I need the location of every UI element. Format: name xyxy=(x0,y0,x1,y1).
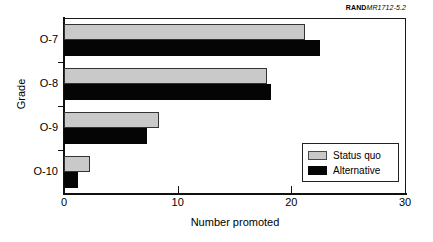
rand-brand: RAND xyxy=(346,4,367,11)
y-axis-tick xyxy=(58,62,65,63)
bar-o-7-status-quo xyxy=(64,24,305,40)
rand-document-number: MR1712-5.2 xyxy=(366,4,406,11)
x-axis-line xyxy=(63,193,407,195)
y-axis-title: Grade xyxy=(15,64,27,124)
bar-o-9-alternative xyxy=(64,128,147,144)
x-axis-tick-label: 20 xyxy=(271,197,311,208)
x-axis-tick-label: 0 xyxy=(44,197,84,208)
y-axis-label-o-10: O-10 xyxy=(10,166,58,177)
bar-o-10-alternative xyxy=(64,172,78,188)
bar-o-10-status-quo xyxy=(64,156,90,172)
x-axis-tick xyxy=(64,186,65,194)
legend-label-status-quo: Status quo xyxy=(333,151,381,161)
legend-label-alternative: Alternative xyxy=(333,166,380,176)
chart-figure: RANDMR1712-5.2 O-7O-8O-9O-10 Grade 01020… xyxy=(0,0,433,242)
legend-swatch-alternative-icon xyxy=(308,166,327,175)
legend-item-alternative: Alternative xyxy=(308,163,393,178)
bar-o-9-status-quo xyxy=(64,112,159,128)
x-axis-tick-label: 10 xyxy=(158,197,198,208)
bar-o-7-alternative xyxy=(64,40,320,56)
x-axis-tick xyxy=(291,186,292,194)
y-axis-tick xyxy=(58,150,65,151)
rand-source-tag: RANDMR1712-5.2 xyxy=(346,4,406,11)
bar-o-8-status-quo xyxy=(64,68,267,84)
x-axis-tick xyxy=(178,186,179,194)
legend-item-status-quo: Status quo xyxy=(308,148,393,163)
bar-o-8-alternative xyxy=(64,84,271,100)
x-axis-tick-label: 30 xyxy=(385,197,425,208)
y-axis-label-o-7: O-7 xyxy=(10,34,58,45)
x-axis-title: Number promoted xyxy=(64,216,406,228)
y-axis-tick xyxy=(58,106,65,107)
x-axis-tick xyxy=(405,186,406,194)
legend-swatch-status-quo-icon xyxy=(308,151,327,160)
chart-legend: Status quo Alternative xyxy=(302,143,399,182)
